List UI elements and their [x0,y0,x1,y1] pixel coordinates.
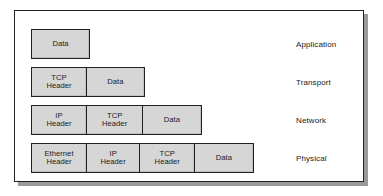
segment-data: Data [142,105,201,135]
segment-label: Data [163,116,181,125]
protocol-stack: Data TCP Header Data IP Header TCP Heade… [15,11,365,183]
segment-label: TCP Header [101,112,128,129]
segment-ethernet-header: Ethernet Header [31,143,87,173]
stack-row-transport: TCP Header Data [31,67,145,97]
layer-label-network: Network [296,105,376,135]
stack-row-physical: Ethernet Header IP Header TCP Header Dat… [31,143,257,173]
layer-label-transport: Transport [296,67,376,97]
stack-row-network: IP Header TCP Header Data [31,105,203,135]
segment-data: Data [86,67,145,97]
segment-label: IP Header [45,112,72,129]
segment-label: TCP Header [45,74,72,91]
segment-tcp-header: TCP Header [31,67,87,97]
segment-data: Data [31,29,90,59]
diagram-frame: Data TCP Header Data IP Header TCP Heade… [14,10,364,182]
layer-label-application: Application [296,29,376,59]
segment-tcp-header: TCP Header [139,143,195,173]
encapsulation-diagram: Data TCP Header Data IP Header TCP Heade… [0,0,383,196]
stack-row-application: Data [31,29,90,59]
segment-ip-header: IP Header [86,143,141,173]
segment-label: Data [215,154,233,163]
segment-label: Data [51,40,69,49]
segment-tcp-header: TCP Header [86,105,144,135]
layer-label-physical: Physical [296,143,376,173]
segment-label: Ethernet Header [43,150,74,167]
segment-label: Data [106,78,124,87]
segment-label: IP Header [100,150,127,167]
segment-label: TCP Header [154,150,181,167]
segment-data: Data [194,143,254,173]
segment-ip-header: IP Header [31,105,87,135]
